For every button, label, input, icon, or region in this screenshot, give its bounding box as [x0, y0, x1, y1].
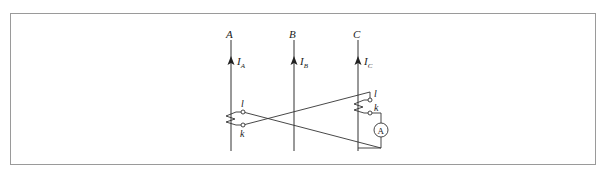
ct-right-terminal-l [368, 98, 372, 102]
ct-right-label-k: k [374, 102, 379, 113]
current-label-a: IA [236, 55, 246, 70]
ct-right-label-l: l [374, 88, 377, 99]
phase-label-a: A [225, 28, 233, 40]
wire-left-l-to-bottom [243, 112, 381, 148]
phase-label-c: C [353, 28, 361, 40]
wire-left-k-to-right-top [243, 92, 370, 125]
phase-label-b: B [289, 28, 296, 40]
ct-left-label-l: l [241, 98, 244, 109]
ct-left-coil [226, 112, 243, 125]
ammeter-label: A [378, 126, 385, 136]
current-label-c: IC [363, 55, 373, 70]
ct-left-terminal-l [241, 110, 245, 114]
current-label-b: IB [299, 55, 309, 70]
ct-right-coil [354, 100, 370, 113]
ct-left-terminal-k [241, 123, 245, 127]
circuit-diagram: A B C IA IB IC l k l k A [0, 0, 605, 180]
ct-left-label-k: k [240, 128, 245, 139]
ct-right-terminal-k [368, 111, 372, 115]
